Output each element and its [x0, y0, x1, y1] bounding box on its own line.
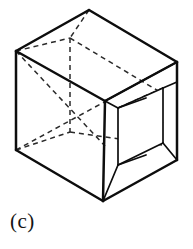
figure-caption: (c) — [10, 209, 35, 233]
figure-container: (c) — [0, 0, 193, 249]
